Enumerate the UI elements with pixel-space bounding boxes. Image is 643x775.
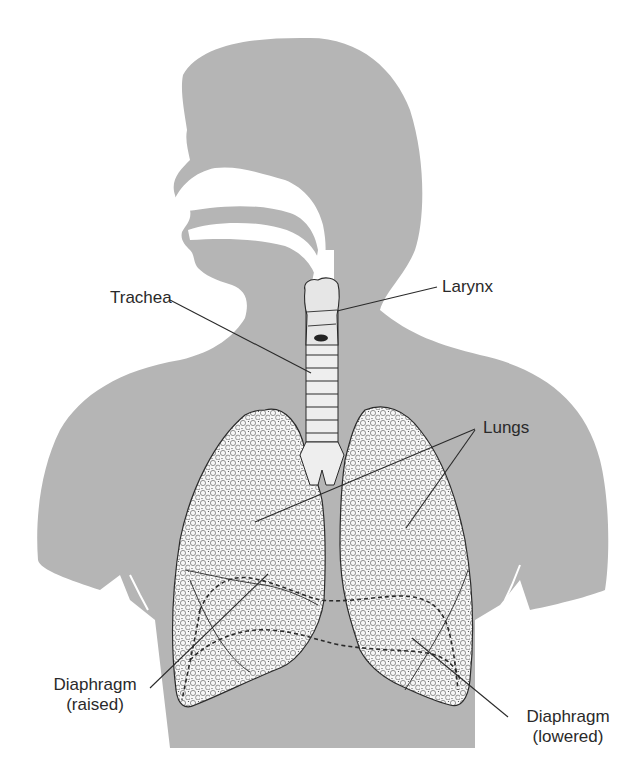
diaphragm-lowered-label: Diaphragm (lowered) [513,707,623,747]
diaphragm-lowered-label-line2: (lowered) [513,727,623,747]
diaphragm-raised-label-line2: (raised) [40,695,150,715]
larynx [305,278,339,345]
trachea-label: Trachea [110,288,172,308]
diaphragm-raised-label-line1: Diaphragm [40,675,150,695]
glottis-opening [314,335,328,342]
respiratory-diagram [0,0,643,775]
lungs-label: Lungs [483,418,529,438]
diaphragm-raised-label: Diaphragm (raised) [40,675,150,715]
diaphragm-lowered-label-line1: Diaphragm [513,707,623,727]
larynx-label: Larynx [442,277,493,297]
